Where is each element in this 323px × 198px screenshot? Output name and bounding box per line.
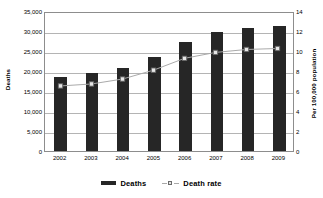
legend-item-death-rate: Death rate	[162, 179, 221, 188]
y-axis-right-tick: 4	[296, 109, 299, 115]
legend-label-death-rate: Death rate	[183, 179, 221, 188]
y-axis-left-tick: 15,000	[24, 89, 42, 95]
legend-line-swatch-icon	[162, 180, 179, 186]
y-axis-left-tick: 35,000	[24, 9, 42, 15]
data-point-marker	[213, 50, 217, 54]
y-axis-right-tick: 12	[296, 29, 303, 35]
chart-legend: Deaths Death rate	[0, 176, 323, 190]
data-point-marker	[89, 82, 93, 86]
data-point-marker	[275, 46, 279, 50]
data-point-marker	[58, 84, 62, 88]
y-axis-left-tick: 20,000	[24, 69, 42, 75]
legend-label-deaths: Deaths	[120, 179, 146, 188]
y-axis-right-tick: 2	[296, 129, 299, 135]
y-axis-right-ticks: 02468101214	[296, 0, 312, 198]
y-axis-left-tick: 30,000	[24, 29, 42, 35]
y-axis-left-tick: 0	[39, 149, 42, 155]
y-axis-right-tick: 8	[296, 69, 299, 75]
y-axis-right-tick: 10	[296, 49, 303, 55]
x-axis-tick-label: 2002	[44, 155, 75, 162]
data-point-marker	[151, 68, 155, 72]
data-point-marker	[120, 77, 124, 81]
x-axis-tick-label: 2008	[232, 155, 263, 162]
x-axis-tick-label: 2004	[107, 155, 138, 162]
y-axis-left-tick: 10,000	[24, 109, 42, 115]
x-axis-tick-label: 2006	[169, 155, 200, 162]
x-axis-tick-label: 2003	[75, 155, 106, 162]
chart-container: Deaths Per 100,000 population 05,00010,0…	[0, 0, 323, 198]
y-axis-left-tick: 5,000	[27, 129, 42, 135]
x-axis-tick-label: 2005	[138, 155, 169, 162]
y-axis-right-tick: 0	[296, 149, 299, 155]
data-point-marker	[182, 56, 186, 60]
death-rate-line	[61, 48, 278, 85]
plot-area	[44, 12, 294, 152]
x-axis-labels: 20022003200420052006200720082009	[44, 155, 294, 167]
y-axis-left-tick: 25,000	[24, 49, 42, 55]
y-axis-right-tick: 6	[296, 89, 299, 95]
legend-bar-swatch-icon	[101, 181, 116, 185]
legend-item-deaths: Deaths	[101, 179, 146, 188]
y-axis-left-ticks: 05,00010,00015,00020,00025,00030,00035,0…	[8, 0, 42, 198]
x-axis-tick-label: 2007	[200, 155, 231, 162]
y-axis-right-tick: 14	[296, 9, 303, 15]
x-axis-tick-label: 2009	[263, 155, 294, 162]
line-series-death-rate	[45, 13, 293, 151]
data-point-marker	[244, 47, 248, 51]
